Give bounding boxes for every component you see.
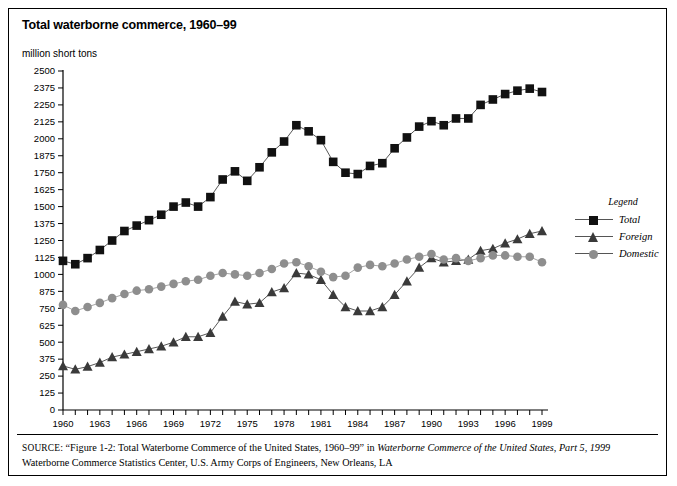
data-point bbox=[267, 287, 277, 296]
data-point bbox=[464, 114, 473, 123]
source-note: SOURCE: “Figure 1-2: Total Waterborne Co… bbox=[22, 441, 654, 469]
legend-item-total[interactable]: Total bbox=[575, 211, 671, 228]
data-point bbox=[132, 221, 141, 230]
data-point bbox=[145, 285, 154, 294]
data-point bbox=[427, 250, 436, 259]
data-point bbox=[267, 265, 276, 274]
x-tick-label: 1999 bbox=[531, 418, 552, 429]
x-tick-label: 1984 bbox=[347, 418, 368, 429]
y-tick-label: 1125 bbox=[35, 252, 55, 263]
data-point bbox=[489, 251, 498, 260]
x-tick-label: 1978 bbox=[274, 418, 295, 429]
data-point bbox=[501, 251, 510, 260]
data-point bbox=[231, 270, 240, 279]
legend-item-domestic[interactable]: Domestic bbox=[575, 245, 671, 262]
data-point bbox=[292, 258, 301, 267]
data-point bbox=[243, 177, 252, 186]
legend-label-total: Total bbox=[613, 214, 640, 225]
data-point bbox=[366, 261, 375, 270]
legend-marker-square-icon bbox=[575, 213, 613, 227]
data-point bbox=[513, 86, 522, 95]
source-prefix: SOURCE bbox=[22, 443, 60, 453]
source-divider bbox=[17, 434, 658, 435]
x-tick-label: 1981 bbox=[310, 418, 331, 429]
series-total bbox=[59, 84, 547, 268]
data-point bbox=[205, 328, 215, 337]
x-tick-label: 1990 bbox=[421, 418, 442, 429]
y-tick-label: 2000 bbox=[34, 133, 55, 144]
source-text-part2: Waterborne Commerce Statistics Center, U… bbox=[22, 457, 393, 468]
x-tick-label: 1963 bbox=[89, 418, 110, 429]
data-point bbox=[95, 358, 105, 367]
figure-page: Total waterborne commerce, 1960–99 milli… bbox=[0, 0, 677, 486]
y-axis-ticks: 0125250375500625750875100011251250137515… bbox=[34, 65, 63, 415]
data-point bbox=[194, 276, 203, 285]
data-point bbox=[230, 297, 240, 306]
legend-item-foreign[interactable]: Foreign bbox=[575, 228, 671, 245]
y-tick-label: 250 bbox=[39, 370, 55, 381]
data-point bbox=[476, 254, 485, 263]
data-point bbox=[280, 137, 289, 146]
data-point bbox=[206, 271, 215, 280]
x-axis-ticks: 1960196319661969197219751978198119841987… bbox=[52, 410, 552, 429]
data-point bbox=[489, 95, 498, 104]
data-point bbox=[169, 280, 178, 289]
y-tick-label: 1250 bbox=[34, 235, 55, 246]
data-point bbox=[194, 202, 203, 211]
data-point bbox=[353, 170, 362, 179]
data-point bbox=[157, 210, 166, 219]
series-foreign bbox=[58, 226, 547, 374]
data-point bbox=[403, 133, 412, 142]
y-tick-label: 1375 bbox=[34, 218, 55, 229]
data-point bbox=[501, 90, 510, 99]
data-point bbox=[108, 294, 117, 303]
data-point bbox=[182, 277, 191, 286]
data-point bbox=[341, 168, 350, 177]
data-point bbox=[120, 227, 129, 236]
data-point bbox=[538, 88, 547, 97]
x-tick-label: 1969 bbox=[163, 418, 184, 429]
data-point bbox=[83, 362, 93, 371]
data-point bbox=[512, 234, 522, 243]
y-tick-label: 2250 bbox=[34, 99, 55, 110]
y-tick-label: 625 bbox=[39, 320, 55, 331]
data-point bbox=[415, 122, 424, 131]
data-point bbox=[71, 307, 80, 316]
data-point bbox=[427, 117, 436, 126]
x-tick-label: 1987 bbox=[384, 418, 405, 429]
data-point bbox=[218, 269, 227, 278]
data-point bbox=[366, 162, 375, 171]
data-point bbox=[525, 252, 534, 261]
data-point bbox=[59, 301, 68, 310]
legend-marker-triangle-icon bbox=[575, 230, 613, 244]
data-point bbox=[317, 267, 326, 276]
legend-title: Legend bbox=[575, 196, 671, 207]
y-tick-label: 125 bbox=[39, 387, 55, 398]
data-point bbox=[96, 299, 105, 308]
data-point bbox=[304, 262, 313, 271]
data-point bbox=[292, 121, 301, 130]
legend: Legend Total Foreign Domestic bbox=[575, 196, 671, 262]
data-point bbox=[255, 163, 264, 172]
legend-label-domestic: Domestic bbox=[613, 248, 659, 259]
data-point bbox=[414, 263, 424, 272]
y-tick-label: 750 bbox=[39, 303, 55, 314]
data-point bbox=[439, 121, 448, 130]
source-italic-title: Waterborne Commerce of the United States… bbox=[377, 442, 610, 453]
data-point bbox=[182, 198, 191, 207]
x-tick-label: 1996 bbox=[495, 418, 516, 429]
data-point bbox=[108, 236, 117, 245]
y-tick-label: 1750 bbox=[34, 167, 55, 178]
x-tick-label: 1972 bbox=[200, 418, 221, 429]
data-point bbox=[83, 303, 92, 312]
data-point bbox=[58, 361, 68, 370]
data-point bbox=[206, 193, 215, 202]
data-series-group bbox=[58, 84, 547, 373]
data-point bbox=[329, 158, 338, 167]
data-point bbox=[59, 257, 68, 266]
data-point bbox=[71, 260, 80, 269]
x-tick-label: 1966 bbox=[126, 418, 147, 429]
y-tick-label: 1625 bbox=[34, 184, 55, 195]
data-point bbox=[280, 259, 289, 268]
data-point bbox=[476, 101, 485, 110]
